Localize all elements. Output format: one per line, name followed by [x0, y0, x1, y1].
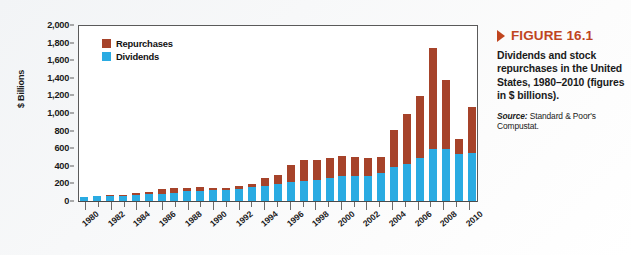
bar-segment-dividends [287, 182, 295, 202]
bar-segment-dividends [390, 167, 398, 202]
legend-label-dividends: Dividends [116, 51, 159, 62]
figure-number: FIGURE 16.1 [511, 28, 593, 43]
x-axis-tick-label: 2010 [464, 209, 484, 228]
y-axis-tick-mark [70, 95, 74, 96]
bar-2004 [390, 130, 398, 202]
bar-segment-repurchases [287, 165, 295, 183]
bar-1987 [170, 188, 178, 203]
y-axis-tick-label: 1,200 [47, 90, 69, 100]
bar-segment-dividends [442, 149, 450, 202]
bar-segment-dividends [338, 176, 346, 202]
bar-segment-repurchases [468, 107, 476, 153]
x-axis-tick-mark [303, 202, 304, 207]
y-axis-tick-label: 2,000 [47, 20, 69, 30]
triangle-bullet-icon [497, 30, 505, 42]
x-axis-tick-mark [251, 202, 252, 207]
bar-segment-dividends [274, 184, 282, 202]
y-axis-tick-mark [70, 25, 74, 26]
x-axis-tick-label: 2004 [387, 209, 407, 228]
figure-heading: FIGURE 16.1 [497, 28, 627, 43]
x-axis-tick-mark [405, 202, 406, 207]
bar-segment-dividends [326, 178, 334, 202]
bar-segment-repurchases [377, 157, 385, 173]
bar-segment-dividends [403, 164, 411, 202]
x-axis-tick-label: 1996 [285, 209, 305, 228]
bar-2002 [364, 158, 372, 202]
x-axis-tick-label: 1980 [80, 209, 100, 228]
y-axis-tick-label: 800 [54, 126, 69, 136]
y-axis-tick-label: 600 [54, 143, 69, 153]
figure-caption-text: Dividends and stock repurchases in the U… [497, 49, 627, 103]
x-axis-tick-label: 2000 [336, 209, 356, 228]
x-axis-tick-mark [124, 202, 125, 207]
bar-1989 [196, 187, 204, 202]
bar-segment-repurchases [403, 114, 411, 164]
y-axis-tick-mark [70, 201, 74, 202]
x-axis-tick-mark [328, 202, 329, 207]
bar-1996 [287, 165, 295, 202]
bar-segment-dividends [351, 176, 359, 202]
x-axis-tick-label: 1982 [106, 209, 126, 228]
y-axis-tick-label: 0 [64, 196, 69, 206]
bar-2007 [429, 48, 437, 202]
bar-segment-repurchases [338, 156, 346, 177]
bar-1998 [313, 160, 321, 202]
x-axis-tick-labels: 1980198219841986198819901992199419961998… [78, 209, 476, 251]
bar-segment-dividends [429, 149, 437, 202]
x-axis-tick-mark [430, 202, 431, 207]
y-axis-tick-label: 1,000 [47, 108, 69, 118]
bar-segment-dividends [300, 181, 308, 202]
legend-item-dividends: Dividends [102, 50, 222, 62]
bar-2008 [442, 80, 450, 202]
x-axis-tick-mark [149, 202, 150, 207]
bar-segment-repurchases [364, 158, 372, 175]
y-axis-tick-mark [70, 77, 74, 78]
bar-segment-dividends [468, 153, 476, 202]
bar-2006 [416, 96, 424, 202]
x-axis-tick-mark [175, 202, 176, 207]
bar-2001 [351, 157, 359, 202]
bar-segment-dividends [313, 180, 321, 202]
y-axis-tick-mark [70, 60, 74, 61]
figure-caption-block: FIGURE 16.1 Dividends and stock repurcha… [497, 28, 627, 131]
x-axis-tick-mark [98, 202, 99, 207]
bar-segment-repurchases [274, 175, 282, 184]
legend-swatch-dividends-icon [102, 52, 111, 61]
bar-1990 [209, 188, 217, 202]
bar-1993 [248, 184, 256, 202]
bar-1995 [274, 175, 282, 202]
x-axis-tick-label: 1992 [234, 209, 254, 228]
bar-1992 [235, 186, 243, 202]
y-axis-tick-mark [70, 113, 74, 114]
y-axis-tick-mark [70, 165, 74, 166]
x-axis-tick-mark [226, 202, 227, 207]
bar-1988 [183, 188, 191, 203]
x-axis-tick-label: 2002 [361, 209, 381, 228]
bar-1999 [326, 158, 334, 202]
x-axis-tick-label: 1984 [131, 209, 151, 228]
y-axis-tick-mark [70, 183, 74, 184]
bar-segment-repurchases [390, 130, 398, 167]
x-axis-tick-label: 2008 [438, 209, 458, 228]
bar-segment-repurchases [326, 158, 334, 178]
x-axis-tick-label: 1990 [208, 209, 228, 228]
source-label: Source: [497, 111, 527, 121]
bar-1997 [300, 160, 308, 202]
x-axis-tick-label: 1994 [259, 209, 279, 228]
y-axis-tick-label: 1,800 [47, 38, 69, 48]
chart-legend: Repurchases Dividends [102, 37, 222, 63]
legend-label-repurchases: Repurchases [116, 38, 173, 49]
x-axis-tick-mark [456, 202, 457, 207]
bar-2005 [403, 114, 411, 202]
bar-segment-dividends [261, 186, 269, 202]
y-axis-ticks: 2,0001,8001,6001,4001,2001,0008006004002… [22, 19, 74, 201]
x-axis-tick-mark [354, 202, 355, 207]
bar-segment-repurchases [416, 96, 424, 158]
y-axis-tick-mark [70, 130, 74, 131]
x-axis-tick-label: 1988 [183, 209, 203, 228]
bar-segment-repurchases [351, 157, 359, 176]
bar-segment-repurchases [429, 48, 437, 149]
y-axis-tick-mark [70, 42, 74, 43]
bar-segment-repurchases [300, 160, 308, 181]
x-axis-tick-label: 1986 [157, 209, 177, 228]
